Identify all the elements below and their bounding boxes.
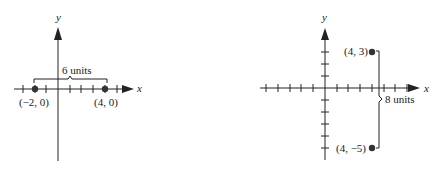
y-axis-arrow-icon: [54, 27, 62, 40]
x-axis-arrow-icon: [122, 85, 134, 93]
point-marker: [369, 49, 375, 55]
y-axis-arrow-icon: [321, 28, 329, 40]
point-marker: [102, 86, 108, 92]
distance-label: 6 units: [62, 64, 92, 76]
point-label: (−2, 0): [19, 96, 49, 109]
figure-horizontal-distance: [14, 27, 134, 161]
distance-brace: [376, 51, 382, 148]
diagram-canvas: y x 6 units (−2, 0) (4, 0): [0, 0, 436, 171]
y-axis-label: y: [55, 11, 61, 23]
x-axis-label: x: [136, 82, 142, 94]
distance-label: 8 units: [385, 93, 415, 105]
x-axis-label: x: [423, 82, 429, 94]
point-marker: [32, 86, 38, 92]
distance-brace: [34, 76, 107, 83]
x-axis-arrow-icon: [408, 84, 420, 92]
point-label: (4, 0): [94, 96, 118, 109]
y-axis-label: y: [321, 11, 327, 23]
point-marker: [369, 145, 375, 151]
point-label: (4, 3): [344, 45, 368, 58]
point-label: (4, −5): [336, 142, 366, 155]
